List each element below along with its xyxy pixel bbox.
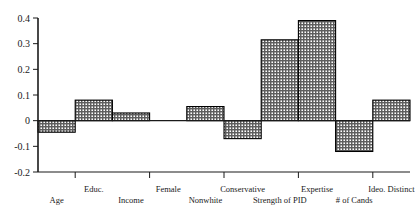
x-category-label: Nonwhite (189, 195, 223, 205)
bar (224, 121, 261, 139)
bar-chart: 0.40.30.20.10-0.1-0.2 AgeEduc.IncomeFema… (0, 0, 419, 213)
y-tick-label: -0.1 (14, 141, 30, 152)
y-tick-label: 0.3 (18, 38, 31, 49)
y-tick-label: 0.4 (18, 13, 31, 24)
bar (187, 107, 224, 121)
x-category-label: Female (156, 184, 181, 194)
x-category-label: Ideo. Distinct (368, 184, 415, 194)
bar (298, 21, 335, 121)
x-category-label: Educ. (84, 184, 104, 194)
x-category-label: # of Cands (336, 195, 373, 205)
x-axis-labels: AgeEduc.IncomeFemaleNonwhiteConservative… (50, 184, 416, 205)
bar-series (38, 21, 410, 152)
bar (373, 100, 410, 121)
x-category-label: Strength of PID (253, 195, 307, 205)
chart-canvas: 0.40.30.20.10-0.1-0.2 AgeEduc.IncomeFema… (0, 0, 419, 213)
x-axis-ticks (75, 172, 373, 178)
x-category-label: Expertise (301, 184, 333, 194)
x-category-label: Income (118, 195, 144, 205)
bar (261, 40, 298, 121)
bar (75, 100, 112, 121)
y-tick-label: 0.1 (18, 90, 31, 101)
bar (336, 121, 373, 152)
y-tick-label: 0 (25, 115, 30, 126)
bar (38, 121, 75, 133)
x-category-label: Age (50, 195, 64, 205)
bar (112, 113, 149, 121)
y-tick-label: -0.2 (14, 167, 30, 178)
x-category-label: Conservative (220, 184, 265, 194)
y-tick-label: 0.2 (18, 64, 31, 75)
y-axis-ticks: 0.40.30.20.10-0.1-0.2 (14, 13, 38, 178)
